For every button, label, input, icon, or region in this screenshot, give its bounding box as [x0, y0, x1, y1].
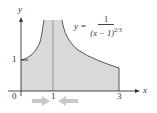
y-axis-arrow-icon	[19, 17, 23, 22]
equation-fraction: 1 (x − 1)2/3	[90, 14, 121, 38]
x-tick-label-3: 3	[117, 92, 122, 101]
equation-denominator: (x − 1)2/3	[90, 25, 121, 38]
y-axis-label: y	[18, 5, 22, 14]
equation-label: y = 1 (x − 1)2/3	[74, 14, 122, 38]
denominator-exponent: 2/3	[114, 27, 122, 33]
left-arrow-icon	[32, 96, 50, 106]
equation-lhs: y =	[74, 21, 86, 31]
x-axis-label: x	[143, 86, 147, 95]
right-arrow-icon	[58, 96, 78, 106]
denominator-base: (x − 1)	[90, 28, 114, 38]
equation-numerator: 1	[98, 14, 114, 25]
y-tick-label-1: 1	[12, 55, 17, 64]
x-axis-arrow-icon	[135, 89, 140, 93]
x-tick-label-1: 1	[51, 92, 56, 101]
origin-label: 0	[12, 92, 17, 101]
